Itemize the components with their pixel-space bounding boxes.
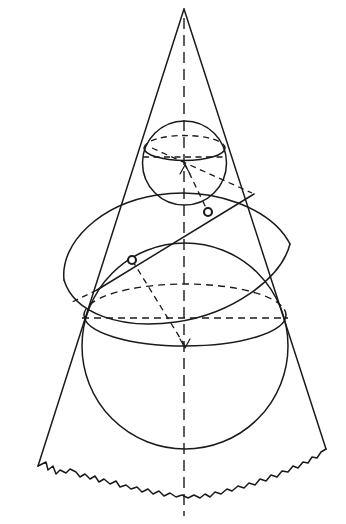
lower-sphere-radius-to-focus [132, 260, 185, 346]
focus-point-lower [128, 256, 136, 264]
focus-points-group [128, 208, 212, 264]
cutting-plane-group [64, 193, 290, 324]
cone-right-generator [184, 9, 326, 449]
torn-bottom-edge-group [38, 449, 326, 498]
dandelin-spheres-diagram [0, 0, 346, 524]
dandelin-figure-root: Dandelin spheres in a cone cut by a plan… [0, 0, 346, 524]
focus-point-upper [204, 208, 212, 216]
upper-sphere-center-arrow [180, 165, 190, 174]
section-ellipse-back [64, 193, 290, 280]
torn-bottom-edge [38, 449, 326, 498]
generator-hidden-upper-segment [152, 148, 252, 193]
cone-left-generator [38, 9, 184, 466]
lower-sphere-group [82, 243, 288, 449]
